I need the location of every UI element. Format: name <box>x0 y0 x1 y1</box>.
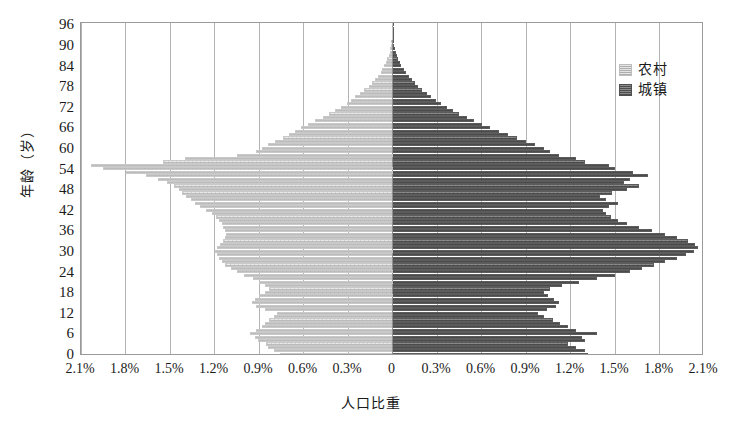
bar-城镇-age-56 <box>393 160 586 163</box>
bar-农村-age-44 <box>195 202 392 205</box>
bar-农村-age-9 <box>265 322 393 325</box>
bar-城镇-age-90 <box>393 44 395 47</box>
bar-农村-age-76 <box>360 92 393 95</box>
bar-城镇-age-10 <box>393 318 553 321</box>
bar-农村-age-36 <box>225 229 393 232</box>
bar-城镇-age-75 <box>393 95 432 98</box>
bar-城镇-age-3 <box>393 342 568 345</box>
bar-城镇-age-9 <box>393 322 561 325</box>
bar-城镇-age-33 <box>393 239 688 242</box>
y-tick-label-30: 30 <box>4 244 74 259</box>
bar-农村-age-73 <box>347 102 393 105</box>
bar-城镇-age-61 <box>393 143 535 146</box>
bar-城镇-age-49 <box>393 184 639 187</box>
bar-城镇-age-95 <box>393 27 394 30</box>
bar-农村-age-13 <box>265 308 393 311</box>
bar-农村-age-74 <box>351 99 393 102</box>
bar-城镇-age-42 <box>393 209 604 212</box>
x-axis-tick-labels: 2.1%1.8%1.5%1.2%0.9%0.6%0.3%00.3%0.6%0.9… <box>0 362 741 386</box>
bar-城镇-age-28 <box>393 257 678 260</box>
bar-城镇-age-59 <box>393 150 550 153</box>
bar-农村-age-80 <box>375 78 393 81</box>
bar-农村-age-34 <box>225 236 393 239</box>
bar-农村-age-26 <box>225 263 393 266</box>
bar-农村-age-38 <box>222 222 393 225</box>
bar-农村-age-24 <box>237 270 393 273</box>
bar-城镇-age-39 <box>393 219 618 222</box>
bar-城镇-age-71 <box>393 109 454 112</box>
bar-农村-age-7 <box>256 329 392 332</box>
y-tick-label-96: 96 <box>4 17 74 32</box>
bar-城镇-age-44 <box>393 202 618 205</box>
bar-农村-age-78 <box>369 85 393 88</box>
y-tick-label-36: 36 <box>4 223 74 238</box>
bar-城镇-age-80 <box>393 78 412 81</box>
bar-城镇-age-52 <box>393 174 648 177</box>
bar-农村-age-10 <box>269 318 392 321</box>
bar-农村-age-49 <box>174 184 392 187</box>
bar-城镇-age-15 <box>393 301 559 304</box>
bar-农村-age-72 <box>341 106 393 109</box>
bar-农村-age-39 <box>219 219 393 222</box>
bar-农村-age-23 <box>244 274 392 277</box>
x-axis-title: 人口比重 <box>0 392 741 412</box>
bar-城镇-age-96 <box>393 23 394 26</box>
bar-城镇-age-82 <box>393 71 406 74</box>
bar-城镇-age-22 <box>393 277 598 280</box>
bar-城镇-age-16 <box>393 298 555 301</box>
bar-城镇-age-92 <box>393 37 394 40</box>
bar-农村-age-50 <box>167 181 392 184</box>
bar-农村-age-5 <box>255 336 393 339</box>
bar-农村-age-71 <box>335 109 393 112</box>
bar-城镇-age-62 <box>393 140 527 143</box>
bar-农村-age-11 <box>274 315 393 318</box>
bar-农村-age-8 <box>262 325 393 328</box>
bar-城镇-age-73 <box>393 102 442 105</box>
bar-城镇-age-6 <box>393 332 598 335</box>
bar-农村-age-77 <box>364 88 392 91</box>
bar-城镇-age-79 <box>393 81 415 84</box>
bar-城镇-age-40 <box>393 215 611 218</box>
y-tick-label-72: 72 <box>4 100 74 115</box>
bar-城镇-age-64 <box>393 133 509 136</box>
bar-农村-age-0 <box>280 353 393 355</box>
bar-农村-age-52 <box>146 174 392 177</box>
bar-城镇-age-70 <box>393 112 460 115</box>
bar-城镇-age-67 <box>393 123 482 126</box>
bar-农村-age-21 <box>259 281 393 284</box>
bar-农村-age-48 <box>179 188 393 191</box>
bar-农村-age-51 <box>158 178 392 181</box>
bar-城镇-age-2 <box>393 346 577 349</box>
bar-城镇-age-8 <box>393 325 568 328</box>
bar-城镇-age-89 <box>393 47 395 50</box>
bar-城镇-age-85 <box>393 61 400 64</box>
bar-城镇-age-19 <box>393 287 550 290</box>
bar-农村-age-30 <box>215 250 393 253</box>
bar-农村-age-27 <box>222 260 393 263</box>
legend-label-rural: 农村 <box>638 60 668 80</box>
bar-农村-age-15 <box>252 301 393 304</box>
bar-农村-age-43 <box>200 205 393 208</box>
legend-swatch-rural-icon <box>619 64 632 76</box>
bar-城镇-age-38 <box>393 222 627 225</box>
bar-农村-age-47 <box>182 191 393 194</box>
legend-swatch-urban-icon <box>619 84 632 96</box>
bar-农村-age-82 <box>381 71 393 74</box>
bar-农村-age-12 <box>277 312 393 315</box>
bar-城镇-age-35 <box>393 233 666 236</box>
bar-城镇-age-66 <box>393 126 491 129</box>
y-tick-label-18: 18 <box>4 285 74 300</box>
bar-城镇-age-36 <box>393 229 653 232</box>
bar-城镇-age-94 <box>393 30 394 33</box>
bar-城镇-age-77 <box>393 88 423 91</box>
bar-农村-age-32 <box>220 243 392 246</box>
bar-农村-age-62 <box>275 140 392 143</box>
legend-item-rural: 农村 <box>619 60 668 80</box>
bar-城镇-age-48 <box>393 188 627 191</box>
bar-城镇-age-34 <box>393 236 678 239</box>
bar-农村-age-22 <box>253 277 392 280</box>
bar-城镇-age-1 <box>393 349 586 352</box>
bar-农村-age-56 <box>163 160 393 163</box>
bar-城镇-age-41 <box>393 212 607 215</box>
bar-城镇-age-78 <box>393 85 418 88</box>
